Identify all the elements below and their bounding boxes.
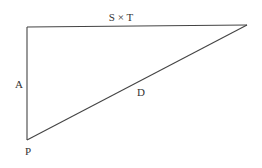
triangle-svg [0,0,262,168]
top-edge-label: S × T [109,12,133,23]
left-edge-label: A [15,79,23,90]
hypotenuse-edge [27,25,247,140]
vertex-p-label: P [25,146,31,157]
hypotenuse-label: D [137,87,145,98]
top-edge [27,25,247,27]
triangle-diagram: S × T A D P [0,0,262,168]
